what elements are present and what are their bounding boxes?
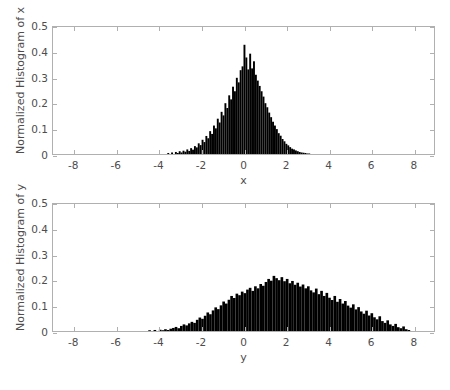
x-tick-label: 4: [325, 336, 332, 348]
histogram-bar: [183, 324, 186, 331]
histogram-bar: [213, 126, 215, 154]
tick-mark: [159, 150, 160, 154]
histogram-bar: [405, 329, 408, 331]
histogram-bar: [273, 276, 276, 331]
histogram-bar: [318, 294, 321, 331]
histogram-bar: [212, 310, 215, 331]
histogram-bar: [276, 129, 278, 154]
histogram-bar: [249, 288, 252, 331]
histogram-bar: [306, 153, 308, 154]
tick-mark: [415, 327, 416, 331]
tick-mark: [202, 327, 203, 331]
histogram-bar: [352, 304, 355, 331]
histogram-bar: [326, 293, 329, 331]
histogram-bar: [394, 324, 397, 331]
histogram-bar: [286, 279, 289, 331]
tick-mark: [53, 333, 57, 334]
histogram-bar: [199, 318, 202, 331]
histogram-bar: [246, 290, 249, 331]
x-axis-title-y: y: [240, 351, 247, 364]
histogram-bar: [257, 81, 259, 154]
histogram-bar: [167, 153, 169, 154]
histogram-bar: [336, 302, 339, 331]
tick-mark: [53, 156, 57, 157]
histogram-bar: [228, 95, 230, 154]
tick-mark: [330, 27, 331, 31]
histogram-bar: [171, 152, 173, 154]
histogram-bar: [347, 306, 350, 331]
tick-mark: [430, 204, 434, 205]
histogram-bar: [230, 296, 233, 331]
tick-mark: [415, 27, 416, 31]
histogram-bars-x: [53, 27, 434, 154]
histogram-bar: [294, 285, 297, 331]
histogram-bar: [230, 99, 232, 154]
tick-mark: [202, 27, 203, 31]
x-tick-label: -6: [111, 159, 121, 171]
tick-mark: [330, 204, 331, 208]
histogram-bar: [368, 316, 371, 331]
histogram-bar: [265, 282, 268, 331]
histogram-bar: [225, 304, 228, 331]
histogram-bar: [255, 75, 257, 154]
tick-mark: [117, 327, 118, 331]
tick-mark: [53, 256, 57, 257]
histogram-bar: [328, 298, 331, 331]
histogram-bar: [224, 103, 226, 154]
tick-mark: [430, 130, 434, 131]
histogram-bar: [238, 295, 241, 331]
histogram-bars-y: [53, 204, 434, 331]
y-axis-title-y: Normalized Histogram of y: [14, 184, 27, 331]
tick-mark: [159, 27, 160, 31]
histogram-bar: [214, 307, 217, 331]
histogram-bar: [228, 300, 231, 331]
histogram-bar: [191, 322, 194, 331]
histogram-bar: [296, 283, 299, 331]
histogram-bar: [203, 142, 205, 154]
subplot-histogram-y: -8-6-4-202468 00.10.20.30.40.5 y Normali…: [0, 195, 450, 390]
tick-mark: [430, 281, 434, 282]
x-tick-label: 6: [368, 336, 375, 348]
histogram-bar: [172, 328, 175, 331]
tick-mark: [245, 327, 246, 331]
histogram-bar: [291, 281, 294, 331]
tick-mark: [430, 333, 434, 334]
histogram-bar: [349, 308, 352, 331]
histogram-bar: [236, 78, 238, 154]
histogram-bar: [267, 279, 270, 331]
tick-mark: [415, 150, 416, 154]
tick-mark: [372, 27, 373, 31]
x-tick-label: 0: [240, 159, 247, 171]
histogram-bar: [179, 151, 181, 154]
axes-x: [52, 26, 435, 155]
x-tick-label: -4: [153, 159, 163, 171]
x-tick-label: 4: [325, 159, 332, 171]
histogram-bar: [184, 152, 186, 154]
histogram-bar: [304, 153, 306, 154]
histogram-bar: [254, 286, 257, 331]
histogram-bar: [221, 112, 223, 154]
histogram-bar: [264, 103, 266, 154]
tick-mark: [74, 27, 75, 31]
histogram-bar: [283, 281, 286, 331]
histogram-bar: [244, 293, 247, 331]
histogram-bar: [259, 86, 261, 154]
tick-mark: [287, 27, 288, 31]
tick-mark: [287, 204, 288, 208]
histogram-bar: [282, 139, 284, 154]
tick-mark: [430, 104, 434, 105]
tick-mark: [430, 27, 434, 28]
tick-mark: [372, 150, 373, 154]
histogram-bar: [196, 320, 199, 331]
histogram-bar: [312, 292, 315, 331]
tick-mark: [430, 256, 434, 257]
tick-mark: [74, 204, 75, 208]
y-axis-title-x: Normalized Histogram of x: [14, 7, 27, 154]
histogram-bar: [219, 123, 221, 154]
histogram-bar: [211, 134, 213, 154]
histogram-bar: [205, 136, 207, 154]
histogram-bar: [185, 325, 188, 331]
histogram-bar: [297, 151, 299, 154]
x-tick-label: -2: [196, 336, 206, 348]
histogram-bar: [270, 281, 273, 331]
